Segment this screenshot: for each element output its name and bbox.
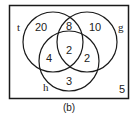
region-g-h-only: 2 xyxy=(84,52,90,64)
set-label-t: t xyxy=(17,21,20,33)
set-label-g: g xyxy=(118,21,124,33)
region-g-only: 10 xyxy=(89,21,101,33)
region-t-g-only: 8 xyxy=(66,20,72,32)
region-outside: 5 xyxy=(119,83,125,95)
venn-diagram: t g h 20 8 10 4 2 2 3 5 (b) xyxy=(0,0,139,117)
region-t-h-only: 4 xyxy=(46,52,52,64)
region-t-g-h: 2 xyxy=(66,44,72,56)
figure-caption: (b) xyxy=(63,102,75,113)
region-h-only: 3 xyxy=(66,75,72,87)
circle-t xyxy=(23,12,83,72)
region-t-only: 20 xyxy=(35,21,47,33)
set-label-h: h xyxy=(43,81,49,93)
